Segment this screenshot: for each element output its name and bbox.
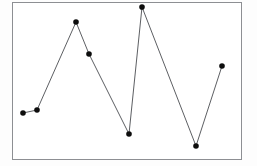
data-point-marker	[193, 143, 199, 149]
line-chart-figure	[0, 0, 257, 166]
data-point-marker	[34, 107, 40, 113]
plot-area	[0, 0, 257, 166]
data-point-marker	[86, 51, 92, 57]
data-point-marker	[126, 131, 132, 137]
data-point-marker	[219, 63, 225, 69]
data-point-marker	[73, 19, 79, 25]
data-point-marker	[139, 4, 145, 10]
data-point-marker	[20, 110, 26, 116]
